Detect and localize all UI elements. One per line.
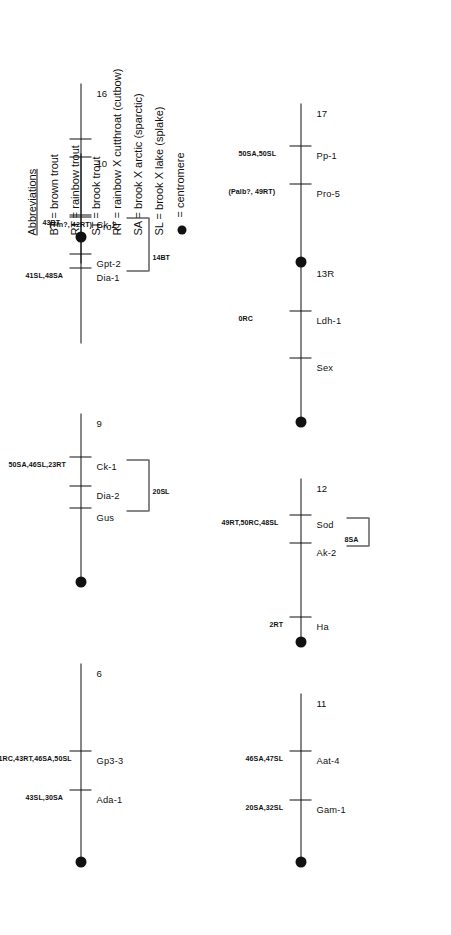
gene-label: Ha <box>316 621 328 631</box>
marker-tick <box>69 456 91 457</box>
legend-centromere-label: = centromere <box>173 152 185 217</box>
gene-label: Gp3-3 <box>96 755 123 765</box>
bracket-label: 14BT <box>152 253 169 261</box>
group-number: 12 <box>316 482 327 493</box>
group-number: 17 <box>316 107 327 118</box>
marker-tick <box>289 750 311 751</box>
gene-label: Ada-1 <box>96 794 122 804</box>
chromosome-axis <box>80 663 81 863</box>
marker-tick <box>289 310 311 311</box>
distance-label: 0RC <box>238 314 253 322</box>
marker-tick <box>289 542 311 543</box>
group-number: 11 <box>316 697 326 708</box>
centromere-dot <box>75 856 86 867</box>
marker-tick <box>69 253 91 254</box>
gene-label: Gus <box>96 512 114 522</box>
distance-label: 50SA,46SL,23RT <box>8 460 65 468</box>
gene-label: Pp-1 <box>316 150 336 160</box>
gene-label: Aat-4 <box>316 755 339 765</box>
distance-label: 20SA,32SL <box>245 803 283 811</box>
centromere-dot <box>295 636 306 647</box>
gene-label: Ak-2 <box>316 547 336 557</box>
bracket-span <box>148 459 149 511</box>
gene-label: Sex <box>316 362 333 372</box>
bracket-span <box>368 517 369 546</box>
distance-label: 43SL,30SA <box>25 793 63 801</box>
legend-entry: ST = brook trout <box>89 156 101 235</box>
gene-label: Pro-5 <box>316 188 340 198</box>
legend-entry: SL = brook X lake (splake) <box>152 106 164 235</box>
marker-tick <box>69 267 91 268</box>
distance-label: 50SA,50SL <box>238 149 276 157</box>
chromosome-axis <box>300 693 301 863</box>
gene-label: Dia-2 <box>96 490 119 500</box>
chromosome-axis <box>300 263 301 423</box>
bracket-arm <box>126 510 148 511</box>
gene-label: Gpt-2 <box>96 258 120 268</box>
linkage-map-figure: Ada-1 Gp3-3 43SL,30SA 41RC,43RT,46SA,50S… <box>0 0 451 935</box>
group-number: 6 <box>96 667 101 678</box>
marker-tick <box>289 183 311 184</box>
marker-tick <box>289 357 311 358</box>
bracket-arm <box>346 517 368 518</box>
marker-tick <box>289 145 311 146</box>
centromere-dot <box>75 576 86 587</box>
gene-label: Ck-1 <box>96 461 116 471</box>
centromere-dot <box>295 256 306 267</box>
distance-label: 41SL,48SA <box>25 271 63 279</box>
marker-tick <box>289 799 311 800</box>
group-number: 9 <box>96 417 101 428</box>
marker-tick <box>289 514 311 515</box>
legend-entry: SA = brook X arctic (sparctic) <box>131 93 143 235</box>
marker-tick <box>289 616 311 617</box>
chromosome-axis <box>80 413 81 583</box>
gene-label: Sod <box>316 519 333 529</box>
centromere-dot <box>295 856 306 867</box>
bracket-arm <box>126 459 148 460</box>
gene-label: Ldh-1 <box>316 315 341 325</box>
bracket-label: 8SA <box>344 535 358 543</box>
distance-label: 41RC,43RT,46SA,50SL <box>0 754 71 762</box>
distance-label: 49RT,50RC,48SL <box>221 518 278 526</box>
group-number: 13R <box>316 267 334 278</box>
chromosome-axis <box>300 478 301 643</box>
marker-tick <box>69 750 91 751</box>
distance-label: 2RT <box>269 620 283 628</box>
legend: Abbreviations BT = brown trout RT = rain… <box>25 5 215 235</box>
distance-label: 46SA,47SL <box>245 754 283 762</box>
legend-entry: BT = brown trout <box>47 154 59 235</box>
gene-label: Gam-1 <box>316 804 345 814</box>
bracket-arm <box>346 545 368 546</box>
gene-label: Dia-1 <box>96 272 119 282</box>
legend-entry: RT = rainbow trout <box>68 145 80 235</box>
marker-tick <box>69 507 91 508</box>
legend-title: Abbreviations <box>25 168 37 235</box>
centromere-icon <box>177 225 186 234</box>
legend-entry: RT = rainbow X cutthroat (cutbow) <box>110 68 122 235</box>
bracket-arm <box>126 270 148 271</box>
centromere-dot <box>295 416 306 427</box>
marker-tick <box>69 485 91 486</box>
distance-label: (Palb?, 49RT) <box>228 187 275 195</box>
bracket-label: 20SL <box>152 487 169 495</box>
marker-tick <box>69 789 91 790</box>
